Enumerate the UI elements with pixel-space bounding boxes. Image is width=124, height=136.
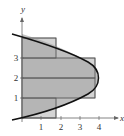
x-axis-label: x — [119, 113, 124, 123]
y-axis-label: y — [20, 4, 25, 14]
region-under-curve — [22, 34, 98, 118]
y-axis-arrow-icon — [20, 17, 24, 22]
y-tick-1: 1 — [14, 93, 19, 103]
x-axis-arrow-icon — [114, 116, 119, 120]
x-tick-1: 1 — [39, 122, 44, 132]
y-tick-3: 3 — [14, 53, 19, 63]
y-tick-2: 2 — [14, 73, 19, 83]
x-tick-2: 2 — [59, 122, 64, 132]
x-tick-4: 4 — [97, 122, 102, 132]
x-tick-3: 3 — [78, 122, 83, 132]
diagram: y x 1 2 3 4 1 2 3 — [0, 0, 124, 136]
